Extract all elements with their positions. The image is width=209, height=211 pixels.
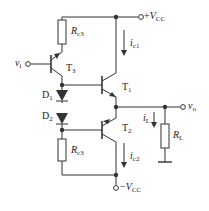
label-t3: T3 (66, 63, 76, 75)
t3-emitter-arrow (54, 53, 60, 59)
terminal-vi (26, 62, 31, 67)
resistor-rc3-top (58, 20, 66, 44)
terminal-vcc-pos (139, 15, 144, 20)
terminal-vo (181, 105, 186, 110)
resistor-rl (161, 124, 169, 148)
label-d2: D2 (42, 111, 53, 123)
circuit-schematic (0, 0, 209, 211)
label-t2: T2 (122, 123, 132, 135)
label-vcc-neg: −VCC (120, 182, 141, 194)
label-t1: T1 (122, 82, 132, 94)
label-ic2: ic2 (130, 151, 139, 163)
diode-d1 (56, 90, 68, 101)
label-rl: RL (173, 130, 183, 142)
label-vo: vo (188, 101, 196, 113)
label-ic1: ic1 (130, 38, 139, 50)
label-rc3-bottom: Rc3 (71, 145, 84, 157)
t1-emitter-arrow (109, 92, 116, 97)
terminal-vcc-neg (114, 186, 119, 191)
diode-d2 (56, 113, 68, 124)
label-d1: D1 (42, 90, 53, 102)
label-vcc-pos: +VCC (144, 11, 165, 23)
label-vi: vi (15, 58, 21, 70)
label-il: iL (143, 113, 150, 125)
label-rc3-top: Rc3 (71, 26, 84, 38)
resistor-rc3-bottom (58, 139, 66, 161)
